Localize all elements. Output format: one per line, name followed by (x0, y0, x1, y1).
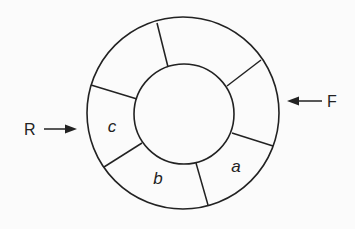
outer-ring (87, 17, 279, 209)
divider-lower-right (232, 133, 273, 146)
front-label: F (327, 93, 337, 110)
divider-upper-right (227, 60, 261, 86)
circular-queue-diagram: c b a R F (0, 0, 355, 229)
divider-top (157, 23, 168, 67)
divider-upper-left (91, 85, 137, 99)
inner-ring (134, 64, 234, 164)
slot-label-a: a (231, 157, 240, 176)
front-arrow-icon (287, 97, 322, 106)
divider-lower-left (104, 143, 142, 167)
slot-label-c: c (108, 117, 117, 136)
rear-label: R (24, 121, 36, 138)
rear-arrow-icon (44, 125, 77, 134)
slot-label-b: b (153, 169, 162, 188)
divider-bottom (196, 163, 208, 205)
